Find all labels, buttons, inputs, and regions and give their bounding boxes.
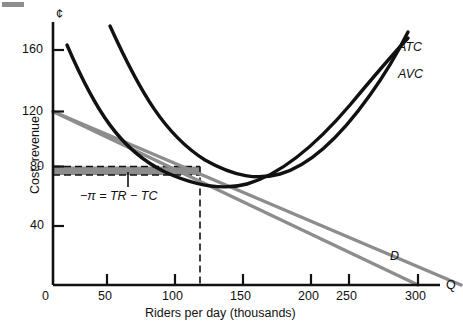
x-tick-label-200: 200 <box>298 290 319 303</box>
chart-canvas <box>0 0 463 326</box>
loss-annotation-label: −π = TR − TC <box>80 190 158 203</box>
x-axis-unit-symbol: Q <box>446 279 456 292</box>
demand-curve-label: D <box>390 250 399 263</box>
y-tick-label-120: 120 <box>22 105 43 118</box>
y-tick-label-40: 40 <box>30 219 44 232</box>
atc-curve-label: ATC <box>398 41 422 54</box>
y-axis-unit-symbol: ¢ <box>56 8 63 21</box>
x-tick-label-100: 100 <box>162 290 183 303</box>
x-tick-label-50: 50 <box>98 290 112 303</box>
economics-cost-revenue-figure: ¢ Cost, revenue 160 120 80 40 0 50 100 1… <box>0 0 463 326</box>
y-tick-label-160: 160 <box>22 43 43 56</box>
x-tick-label-250: 250 <box>336 290 357 303</box>
y-tick-label-80: 80 <box>30 160 44 173</box>
avc-curve-label: AVC <box>398 68 423 81</box>
x-axis-title: Riders per day (thousands) <box>145 307 296 320</box>
x-tick-label-300: 300 <box>405 290 426 303</box>
x-tick-label-150: 150 <box>230 290 251 303</box>
x-tick-label-0: 0 <box>42 290 49 303</box>
